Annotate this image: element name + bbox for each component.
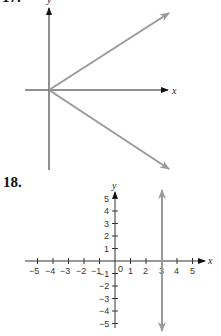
svg-text:1: 1 [128,266,133,276]
svg-text:3: 3 [104,219,109,229]
svg-text:−2: −2 [99,281,109,291]
svg-text:5: 5 [190,266,195,276]
x-axis-label: x [207,255,213,266]
upper-ray [49,13,169,90]
svg-text:1: 1 [104,244,109,254]
lower-ray [49,90,169,169]
graph-17: x y [25,0,177,170]
x-tick-labels: −5 −4 −3 −2 −1 0 1 2 3 4 5 [29,264,195,276]
y-axis-label: y [46,0,52,5]
svg-text:4: 4 [104,206,109,216]
svg-text:−4: −4 [99,306,109,316]
svg-text:−5: −5 [29,266,39,276]
svg-text:−1: −1 [99,269,109,279]
svg-text:4: 4 [174,266,179,276]
svg-text:−2: −2 [76,266,86,276]
graph-18: x y −5 −4 −3 −2 −1 0 1 2 3 4 5 [25,180,213,331]
svg-text:−4: −4 [45,266,55,276]
svg-text:0: 0 [118,264,123,274]
x-axis-label: x [171,85,177,96]
svg-text:−3: −3 [99,294,109,304]
svg-text:5: 5 [104,194,109,204]
svg-text:2: 2 [143,266,148,276]
svg-text:2: 2 [104,231,109,241]
graphs: x y x y −5 −4 −3 −2 −1 0 1 [0,0,221,336]
svg-text:−5: −5 [99,319,109,329]
svg-text:−3: −3 [60,266,70,276]
y-axis-label: y [111,180,117,191]
